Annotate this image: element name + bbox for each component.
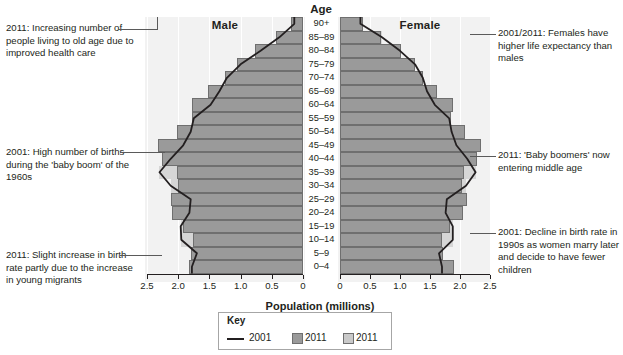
x-tick [209,275,210,279]
legend-label-2001-line: 2001 [249,332,271,343]
age-tick-label: 90+ [305,17,338,31]
x-tick [430,275,431,279]
x-tick [490,275,491,279]
female-side-label: Female [380,19,460,31]
x-tick [303,275,304,279]
x-tick-label-male: 2.5 [132,280,162,291]
age-tick-label: 70–74 [305,71,338,85]
x-tick-label-male: 0.5 [257,280,287,291]
age-tick-label: 75–79 [305,58,338,72]
x-tick-label-male: 2.0 [163,280,193,291]
leader-line [470,34,496,35]
line-2001-male [160,17,295,274]
x-axis-title: Population (millions) [200,300,440,312]
age-tick-labels: 0–45–910–1415–1920–2425–2930–3435–3940–4… [305,17,338,282]
x-tick [147,275,148,279]
x-tick [340,275,341,279]
legend-title: Key [227,315,245,326]
x-tick-label-male: 1.0 [226,280,256,291]
age-tick-label: 0–4 [305,260,338,274]
anno-migrants: 2011: Slight increase in birth rate part… [6,249,136,287]
male-side-label: Male [185,19,265,31]
x-tick [460,275,461,279]
x-tick-label-female: 1.5 [415,280,445,291]
age-tick-label: 10–14 [305,233,338,247]
age-tick-label: 80–84 [305,44,338,58]
x-tick [400,275,401,279]
leader-line [118,29,158,30]
leader-line [120,255,162,256]
x-tick-label-female: 0 [325,280,355,291]
x-axis-female [340,274,490,275]
leader-line [470,233,496,234]
x-axis-male [147,274,303,275]
anno-old-age: 2011: Increasing number of people living… [6,22,134,60]
age-tick-label: 40–44 [305,152,338,166]
x-tick [241,275,242,279]
x-tick-label-female: 2.0 [445,280,475,291]
legend-line-2001 [227,338,244,340]
age-tick-label: 15–19 [305,220,338,234]
x-tick-label-male: 0 [288,280,318,291]
age-tick-label: 45–49 [305,139,338,153]
age-tick-label: 85–89 [305,31,338,45]
age-tick-label: 20–24 [305,206,338,220]
x-tick-label-female: 1.0 [385,280,415,291]
anno-birth-decline: 2001: Decline in birth rate in 1990s as … [498,226,622,276]
age-tick-label: 25–29 [305,193,338,207]
age-tick-label: 50–54 [305,125,338,139]
leader-line [157,17,158,30]
age-tick-label: 5–9 [305,247,338,261]
anno-life-expectancy: 2001/2011: Females have higher life expe… [498,27,620,65]
x-tick [272,275,273,279]
legend-key: Key 2001 2011 2011 [218,312,392,350]
legend-label-2011-light: 2011 [356,332,378,343]
age-axis-title: Age [288,3,354,15]
leader-line [470,156,496,157]
x-tick-label-female: 2.5 [475,280,505,291]
legend-swatch-2011-dark [292,333,303,344]
line-2001-female [360,17,475,274]
age-tick-label: 55–59 [305,112,338,126]
age-tick-label: 60–64 [305,98,338,112]
legend-swatch-2011-light [343,333,354,344]
x-tick [178,275,179,279]
anno-boomers-middle-age: 2011: 'Baby boomers' now entering middle… [498,149,620,174]
age-tick-label: 30–34 [305,179,338,193]
x-tick [370,275,371,279]
anno-baby-boom: 2001: High number of births during the '… [6,146,134,184]
age-tick-label: 65–69 [305,85,338,99]
x-tick-label-male: 1.5 [194,280,224,291]
population-pyramid-figure: Male Female Age 0–45–910–1415–1920–2425–… [0,0,623,355]
leader-line [120,152,165,153]
x-tick-label-female: 0.5 [355,280,385,291]
age-tick-label: 35–39 [305,166,338,180]
legend-label-2011-dark: 2011 [305,332,327,343]
